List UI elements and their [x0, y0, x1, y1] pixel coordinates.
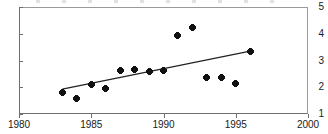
data-point: [146, 68, 153, 75]
data-point: [247, 48, 254, 55]
data-point: [218, 74, 225, 81]
data-point: [174, 32, 181, 39]
data-point: [131, 66, 138, 73]
data-point: [59, 89, 66, 96]
data-point: [73, 95, 80, 102]
data-point: [203, 74, 210, 81]
data-point: [232, 80, 239, 87]
data-point: [102, 85, 109, 92]
data-point: [160, 67, 167, 74]
data-point: [189, 24, 196, 31]
data-point: [88, 81, 95, 88]
data-point: [117, 67, 124, 74]
